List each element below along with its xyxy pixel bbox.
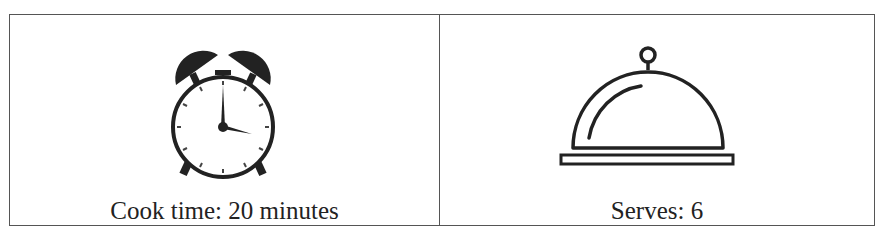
- serves-label: Serves: 6: [440, 197, 874, 225]
- serves-cell: Serves: 6: [440, 15, 874, 225]
- cook-time-cell: Cook time: 20 minutes: [10, 15, 440, 225]
- serving-cloche-icon: [559, 43, 739, 168]
- cook-time-label: Cook time: 20 minutes: [10, 197, 439, 225]
- recipe-info-table: Cook time: 20 minutes Serves: 6: [9, 14, 875, 226]
- alarm-clock-icon: [168, 39, 278, 184]
